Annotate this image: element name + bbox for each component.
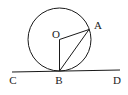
label-point-d: D — [113, 74, 121, 86]
chord-segment-ba — [60, 30, 90, 72]
label-point-c: C — [9, 74, 16, 86]
label-center-o: O — [52, 28, 60, 40]
label-point-a: A — [94, 19, 102, 31]
label-point-b: B — [55, 74, 62, 86]
radius-segment-oa — [60, 30, 90, 40]
geometry-canvas: O A B C D — [0, 0, 128, 95]
geometry-figure: O A B C D — [0, 0, 128, 95]
